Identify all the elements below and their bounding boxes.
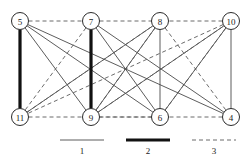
node-label: 7	[89, 17, 94, 27]
legend-item: 2	[126, 140, 170, 156]
legend-layer: 123	[60, 140, 236, 156]
graph-node[interactable]: 11	[12, 109, 29, 126]
node-label: 9	[89, 113, 94, 123]
graph-node[interactable]: 6	[152, 109, 169, 126]
legend-item: 1	[60, 140, 104, 156]
node-label: 8	[158, 17, 163, 27]
graph-node[interactable]: 8	[152, 13, 169, 30]
node-label: 4	[229, 113, 234, 123]
graph-canvas: 5781011964 123	[0, 0, 250, 163]
graph-node[interactable]: 5	[12, 13, 29, 30]
graph-node[interactable]: 4	[223, 109, 240, 126]
legend-item: 3	[192, 140, 236, 156]
legend-label: 3	[212, 146, 217, 156]
graph-node[interactable]: 10	[223, 13, 240, 30]
legend-label: 1	[80, 146, 85, 156]
graph-node[interactable]: 9	[83, 109, 100, 126]
node-label: 11	[16, 113, 25, 123]
node-label: 6	[158, 113, 163, 123]
node-label: 5	[18, 17, 23, 27]
graph-node[interactable]: 7	[83, 13, 100, 30]
node-label: 10	[227, 17, 237, 27]
edges-layer	[20, 21, 231, 117]
graph-diagram: 5781011964 123	[0, 0, 250, 163]
legend-label: 2	[146, 146, 151, 156]
